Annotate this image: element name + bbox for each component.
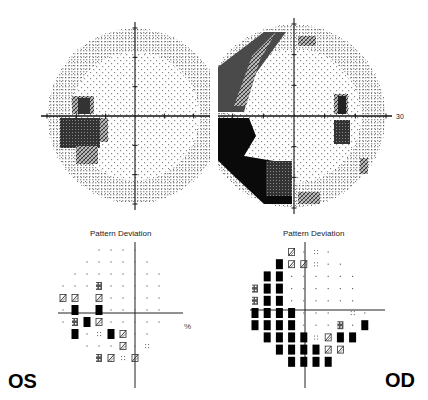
pd-point-n (315, 276, 316, 277)
pd-point-p5 (314, 262, 318, 266)
pd-point-n (134, 285, 135, 286)
pd-point-n (98, 249, 99, 250)
pd-point-n (110, 297, 111, 298)
os-grayscale-field: 30 (20, 8, 210, 218)
pd-point-n (158, 297, 159, 298)
pd-point-p05 (276, 259, 283, 269)
pd-point-n (146, 261, 147, 262)
pd-point-p2 (325, 346, 331, 353)
pd-point-p05 (288, 357, 295, 367)
pd-point-n (146, 273, 147, 274)
pd-point-p05 (276, 296, 283, 306)
pd-point-n (86, 273, 87, 274)
pd-point-n (328, 264, 329, 265)
pd-point-n (340, 300, 341, 301)
pd-point-p05 (276, 308, 283, 318)
pd-point-p5 (314, 250, 318, 254)
pd-point-n (146, 333, 147, 334)
pd-point-n (364, 312, 365, 313)
pd-point-p05 (276, 320, 283, 330)
pd-point-n (86, 285, 87, 286)
pd-point-n (303, 312, 304, 313)
pd-point-n (158, 321, 159, 322)
pd-point-p5 (145, 344, 149, 348)
pd-point-p05 (72, 305, 79, 315)
pd-point-n (74, 273, 75, 274)
pd-point-n (74, 285, 75, 286)
pd-point-p1 (252, 285, 258, 293)
pd-point-p05 (276, 345, 283, 355)
pd-point-n (303, 325, 304, 326)
pd-point-n (340, 288, 341, 289)
pd-point-n (340, 264, 341, 265)
pd-point-n (98, 345, 99, 346)
pd-point-p2 (289, 261, 295, 268)
pd-point-p2 (301, 261, 307, 268)
pd-point-n (146, 285, 147, 286)
pd-point-n (291, 276, 292, 277)
pd-point-n (352, 325, 353, 326)
pd-point-n (303, 276, 304, 277)
pd-point-n (98, 273, 99, 274)
pd-point-n (62, 285, 63, 286)
pd-point-p1 (96, 282, 102, 290)
defect-inferior-tail (76, 146, 98, 164)
pd-point-p05 (349, 332, 356, 342)
pd-point-p2 (325, 334, 331, 341)
pd-point-n (328, 312, 329, 313)
pd-point-p05 (276, 284, 283, 294)
pd-point-n (62, 309, 63, 310)
pd-point-p05 (276, 271, 283, 281)
pd-point-p1 (252, 297, 258, 305)
pd-point-n (291, 300, 292, 301)
pd-point-p05 (288, 332, 295, 342)
pd-point-p05 (325, 357, 332, 367)
pd-point-n (134, 261, 135, 262)
pd-point-p05 (84, 317, 91, 327)
pd-point-n (134, 249, 135, 250)
pd-point-p05 (313, 357, 320, 367)
pd-point-n (315, 325, 316, 326)
pd-point-n (122, 297, 123, 298)
pd-point-n (110, 321, 111, 322)
pd-point-n (328, 251, 329, 252)
os-pattern-deviation-plot (58, 240, 188, 390)
pd-point-p1 (96, 354, 102, 362)
pd-point-n (110, 285, 111, 286)
blind-spot-inferior (334, 120, 350, 144)
pd-point-n (352, 300, 353, 301)
pd-point-n (134, 321, 135, 322)
pd-point-n (315, 300, 316, 301)
pd-point-n (110, 249, 111, 250)
os-pattern-deviation-title: Pattern Deviation (90, 229, 151, 238)
pd-point-n (158, 309, 159, 310)
pd-point-p2 (72, 295, 78, 302)
pd-point-p05 (96, 305, 103, 315)
pd-point-n (62, 321, 63, 322)
pd-point-p5 (314, 336, 318, 340)
pd-point-n (134, 345, 135, 346)
pd-point-p05 (264, 332, 271, 342)
od-pattern-deviation-plot (250, 240, 390, 390)
pd-point-p5 (121, 356, 125, 360)
pd-point-n (134, 333, 135, 334)
pd-point-p05 (337, 332, 344, 342)
pd-point-p05 (264, 271, 271, 281)
pd-point-p05 (108, 329, 115, 339)
pd-point-n (122, 285, 123, 286)
pd-point-p05 (300, 332, 307, 342)
pd-point-n (146, 321, 147, 322)
defect-inferior (60, 118, 100, 148)
pd-point-p2 (96, 295, 102, 302)
pd-point-n (122, 249, 123, 250)
pd-point-p1 (337, 321, 343, 329)
axis-label-30: 30 (396, 113, 404, 120)
pd-point-p05 (264, 308, 271, 318)
pd-point-p2 (108, 355, 114, 362)
pd-point-p05 (252, 308, 259, 318)
pd-point-n (303, 288, 304, 289)
pd-point-p2 (120, 343, 126, 350)
pd-point-n (122, 321, 123, 322)
pd-point-n (134, 273, 135, 274)
pd-point-p05 (313, 345, 320, 355)
